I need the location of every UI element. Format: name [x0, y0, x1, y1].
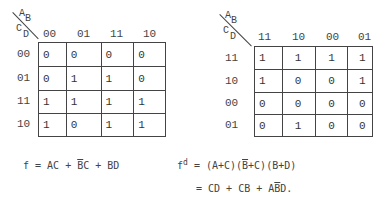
row-header: 00	[225, 97, 238, 109]
cell: 1	[282, 47, 316, 70]
cell: 0	[316, 93, 348, 115]
cell: 0	[39, 67, 67, 91]
corner-var-c: C	[223, 25, 229, 36]
corner-var-c: C	[16, 23, 22, 34]
cell: 1	[348, 47, 373, 70]
cell: 1	[255, 70, 283, 93]
row-header: 01	[225, 119, 238, 131]
cell: 1	[101, 91, 134, 114]
row-header: 10	[17, 118, 30, 130]
col-header: 00	[43, 28, 56, 40]
cell: 1	[282, 115, 316, 137]
corner-var-d: D	[230, 31, 236, 42]
cell: 0	[348, 93, 373, 115]
corner-var-b: B	[25, 13, 31, 24]
cell: 1	[39, 91, 67, 114]
formula-fd-line1: fd = (A+C)(B+C)(B+D)	[177, 158, 296, 171]
cell: 0	[66, 43, 101, 67]
cell: 1	[348, 70, 373, 93]
cell: 1	[101, 114, 134, 137]
col-header: 11	[110, 28, 123, 40]
col-header: 01	[77, 28, 90, 40]
row-header: 11	[17, 95, 30, 107]
cell: 1	[255, 47, 283, 70]
cell: 0	[316, 70, 348, 93]
right-map-grid: 1 1 1 1 1 0 0 1 0 0 0 0 0 1 0 0	[254, 46, 373, 137]
left-map-grid: 0 0 0 0 0 1 1 0 1 1 1 1 1 0 1 1	[38, 42, 166, 137]
cell: 0	[255, 115, 283, 137]
cell: 1	[134, 91, 166, 114]
row-header: 01	[17, 72, 30, 84]
cell: 1	[66, 67, 101, 91]
cell: 0	[316, 115, 348, 137]
cell: 1	[101, 67, 134, 91]
row-header: 00	[17, 48, 30, 60]
col-header: 00	[326, 31, 339, 43]
corner-var-b: B	[231, 15, 237, 26]
cell: 0	[282, 70, 316, 93]
formula-fd-line2: = CD + CB + ABD.	[196, 183, 292, 194]
cell: 0	[101, 43, 134, 67]
cell: 0	[282, 93, 316, 115]
cell: 0	[134, 43, 166, 67]
cell: 1	[66, 91, 101, 114]
cell: 1	[39, 114, 67, 137]
cell: 0	[134, 67, 166, 91]
cell: 0	[66, 114, 101, 137]
formula-f: f = AC + BC + BD	[23, 160, 119, 171]
col-header: 01	[358, 31, 371, 43]
cell: 0	[39, 43, 67, 67]
row-header: 10	[225, 75, 238, 87]
cell: 0	[255, 93, 283, 115]
cell: 1	[134, 114, 166, 137]
cell: 0	[348, 115, 373, 137]
cell: 1	[316, 47, 348, 70]
col-header: 10	[292, 31, 305, 43]
corner-var-d: D	[23, 29, 29, 40]
row-header: 11	[225, 52, 238, 64]
col-header: 11	[258, 31, 271, 43]
col-header: 10	[143, 28, 156, 40]
